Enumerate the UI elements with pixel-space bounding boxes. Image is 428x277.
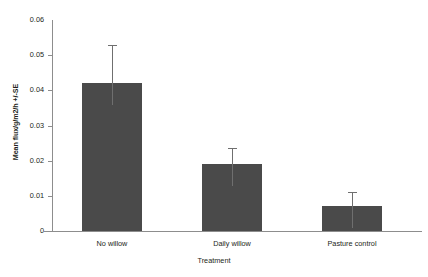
y-axis-tick-labels: 0.060.050.040.030.020.010 — [14, 0, 44, 277]
y-tick-label: 0.05 — [18, 51, 44, 58]
y-tick-label: 0 — [18, 227, 44, 234]
y-tick-label: 0.04 — [18, 86, 44, 93]
plot-area — [53, 20, 422, 231]
x-tick-label: Pasture control — [302, 239, 402, 248]
x-tick-label: No willow — [62, 239, 162, 248]
bar-group — [82, 20, 142, 231]
error-bar-line — [112, 45, 113, 106]
y-tick-mark — [48, 196, 53, 197]
y-tick-mark — [48, 90, 53, 91]
error-bar-cap — [228, 148, 237, 149]
y-tick-label: 0.03 — [18, 122, 44, 129]
y-tick-label: 0.01 — [18, 192, 44, 199]
y-tick-mark — [48, 161, 53, 162]
error-bar-line — [232, 148, 233, 186]
error-bar-line — [352, 192, 353, 228]
y-tick-label: 0.06 — [18, 16, 44, 23]
x-tick-label: Daily willow — [182, 239, 282, 248]
bar-group — [202, 20, 262, 231]
bar-group — [322, 20, 382, 231]
bar-chart: Mean flux/g/m2/h +/-SE 0.060.050.040.030… — [0, 0, 428, 277]
error-bar-cap — [108, 45, 117, 46]
y-tick-label: 0.02 — [18, 157, 44, 164]
error-bar-cap — [348, 192, 357, 193]
x-axis-title: Treatment — [0, 256, 428, 265]
y-tick-mark — [48, 55, 53, 56]
y-tick-mark — [48, 126, 53, 127]
bar — [82, 83, 142, 231]
x-axis-line — [44, 231, 422, 232]
